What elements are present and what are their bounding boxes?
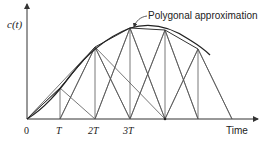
x-axis-label: Time (226, 125, 248, 136)
diagonals (60, 28, 232, 119)
y-axis-label: c(t) (7, 18, 23, 31)
sample-lines (60, 28, 198, 119)
annotation-label: Polygonal approximation (148, 10, 258, 21)
tick-label-T: T (56, 125, 63, 136)
triangle-pulses (27, 28, 232, 119)
tick-label-3T: 3T (122, 125, 135, 136)
tick-label-0: 0 (24, 125, 29, 136)
tick-dot (164, 118, 167, 121)
tick-label-2T: 2T (88, 125, 100, 136)
continuous-curve (27, 25, 210, 119)
polygonal-approximation-diagram: Polygonal approximation c(t) Time 0 T 2T… (0, 0, 271, 143)
